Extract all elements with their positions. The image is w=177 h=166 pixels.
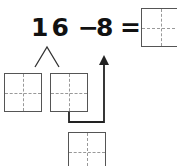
arrow-head-icon: [99, 55, 109, 65]
split-branch-icon: [35, 47, 59, 67]
arrow-connector: [69, 63, 104, 122]
connector-lines: [0, 0, 177, 166]
